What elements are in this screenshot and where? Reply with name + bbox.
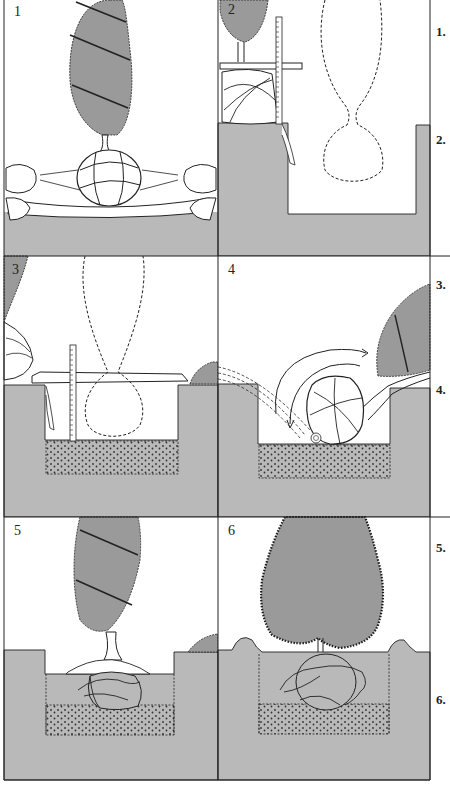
loose-soil-bed (46, 441, 178, 474)
burlap-roll (311, 433, 321, 443)
panel-2: 2 (218, 0, 430, 256)
root-ball (88, 672, 141, 710)
right-hand (184, 164, 216, 193)
panel-6: 6 (218, 517, 430, 780)
panel-number: 5 (14, 523, 21, 538)
panel-number: 6 (228, 523, 235, 538)
panel-1: 1 (4, 0, 218, 256)
step-marker-2: 2. (436, 132, 446, 148)
step-marker-5: 5. (436, 540, 446, 556)
root-ball (296, 654, 356, 710)
board (220, 63, 302, 69)
panel-number: 2 (228, 2, 235, 17)
ruler (70, 345, 76, 441)
board (32, 372, 188, 383)
panel-number: 1 (14, 4, 21, 19)
step-marker-4: 4. (436, 382, 446, 398)
left-hand (6, 164, 36, 193)
root-ball (77, 150, 141, 206)
panel-4: 4 (218, 256, 430, 517)
ground (4, 212, 218, 256)
step-marker-3: 3. (436, 277, 446, 293)
loose-soil-bed (259, 445, 390, 478)
panel-number: 3 (12, 262, 19, 277)
panel-number: 4 (228, 262, 235, 277)
diagram-svg: 1 2 (0, 0, 450, 793)
step-marker-6: 6. (436, 692, 446, 708)
tree-foliage-full (261, 517, 383, 648)
transplant-diagram: 1 2 (0, 0, 450, 793)
panel-3: 3 (4, 256, 218, 517)
step-marker-1: 1. (436, 24, 446, 40)
ruler (276, 17, 282, 124)
panel-5: 5 (4, 517, 218, 780)
root-ball (222, 69, 278, 124)
